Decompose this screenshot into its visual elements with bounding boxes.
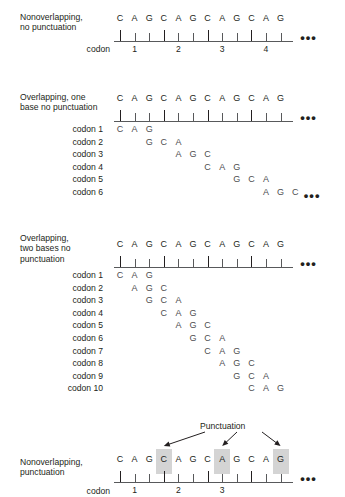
ellipsis-icon: ••• [300,475,317,483]
base-letter: C [157,455,171,464]
punctuation-arrow-line [262,432,277,444]
base-letter: C [113,455,127,464]
codon-boundary-tick [251,471,252,482]
base-tick [266,474,267,482]
punctuation-arrow-line [168,432,205,445]
base-letter: A [128,455,142,464]
codon-boundary-tick [120,471,121,482]
base-letter: G [186,455,200,464]
base-letter: C [201,455,215,464]
base-tick [237,474,238,482]
base-letter: A [259,455,273,464]
base-letter: G [230,455,244,464]
base-tick [193,474,194,482]
punctuation-arrow-head-icon [274,440,280,446]
base-tick [222,474,223,482]
punctuation-arrow-head-icon [164,442,171,447]
base-letter: G [142,455,156,464]
base-letter: G [274,455,288,464]
base-letter: A [171,455,185,464]
codon-boundary-tick [208,471,209,482]
base-letter: A [215,455,229,464]
base-tick [149,474,150,482]
codon-number: 3 [212,486,232,495]
panel-title: Nonoverlapping, punctuation [20,457,83,478]
base-tick [135,474,136,482]
base-tick [178,474,179,482]
sequence-axis-line [114,482,293,483]
codon-number: 1 [125,486,145,495]
codon-word-label: codon [55,486,110,496]
punctuation-arrow-line [225,432,237,443]
codon-number: 2 [168,486,188,495]
base-letter: C [244,455,258,464]
punctuation-arrows-icon [0,0,345,497]
base-tick [281,474,282,482]
codon-boundary-tick [164,471,165,482]
